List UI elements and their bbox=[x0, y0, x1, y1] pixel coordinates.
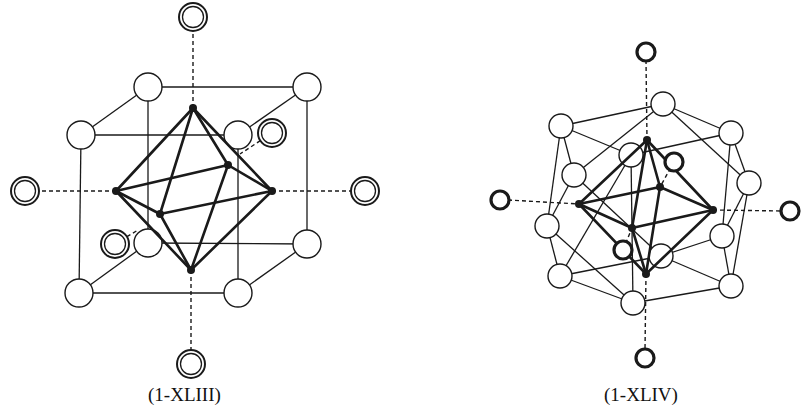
sphere-node bbox=[293, 230, 321, 258]
cage-edge bbox=[633, 286, 731, 303]
octahedron-edge bbox=[632, 210, 713, 228]
ring-ligand-icon bbox=[781, 202, 799, 220]
ring-ligand-icon bbox=[491, 191, 509, 209]
cuboctahedron-sphere-nodes bbox=[535, 92, 761, 315]
octahedron-edge bbox=[116, 191, 160, 214]
ring-ligand-icon bbox=[614, 241, 632, 259]
metal-atom bbox=[709, 206, 717, 214]
sphere-node bbox=[719, 121, 743, 145]
octahedron-edge bbox=[160, 191, 272, 214]
ring-ligand-icon bbox=[179, 3, 207, 31]
sphere-node bbox=[535, 214, 559, 238]
metal-atom bbox=[643, 136, 651, 144]
sphere-node bbox=[293, 73, 321, 101]
sphere-node bbox=[549, 114, 573, 138]
metal-atom bbox=[187, 266, 195, 274]
ring-ligand-icon bbox=[101, 230, 129, 258]
octahedron-edge bbox=[116, 165, 228, 191]
ring-ligand-icon bbox=[177, 350, 205, 378]
sphere-node bbox=[134, 73, 162, 101]
ring-ligand-icon bbox=[351, 177, 379, 205]
sphere-node bbox=[562, 163, 586, 187]
octahedron-edge bbox=[660, 187, 713, 210]
octahedron-edge bbox=[116, 108, 193, 191]
caption-1-xliii: (1-XLIII) bbox=[148, 384, 221, 406]
ring-ligand-icon bbox=[665, 153, 683, 171]
ring-ligand-icon bbox=[11, 177, 39, 205]
ring-ligand-icon bbox=[258, 119, 286, 147]
sphere-node bbox=[719, 274, 743, 298]
sphere-node bbox=[649, 244, 673, 268]
diagram-canvas bbox=[0, 0, 801, 415]
metal-atom bbox=[575, 200, 583, 208]
sphere-node bbox=[65, 279, 93, 307]
dashed-axis bbox=[646, 60, 647, 140]
octahedron-edge bbox=[193, 108, 272, 191]
octahedron-edge bbox=[579, 187, 660, 204]
metal-atom bbox=[268, 187, 276, 195]
metal-atom bbox=[656, 183, 664, 191]
cage-edge bbox=[561, 104, 663, 126]
sphere-node bbox=[548, 264, 572, 288]
figure-1-xliii bbox=[11, 3, 379, 378]
octahedron-edge bbox=[191, 165, 228, 270]
sphere-node bbox=[710, 224, 734, 248]
cage-edge bbox=[148, 243, 307, 244]
octahedron-edge bbox=[579, 204, 632, 228]
cage-edge bbox=[79, 135, 81, 293]
metal-atom bbox=[628, 224, 636, 232]
sphere-node bbox=[67, 121, 95, 149]
metal-atom bbox=[156, 210, 164, 218]
metal-atom bbox=[189, 104, 197, 112]
octahedron-edges bbox=[579, 140, 713, 274]
dashed-axis bbox=[645, 274, 646, 350]
sphere-node bbox=[651, 92, 675, 116]
metal-atom bbox=[642, 270, 650, 278]
metal-atom bbox=[224, 161, 232, 169]
caption-1-xliv: (1-XLIV) bbox=[604, 384, 678, 406]
octahedron-edge bbox=[191, 191, 272, 270]
dashed-axis bbox=[508, 200, 579, 204]
sphere-node bbox=[737, 171, 761, 195]
sphere-node bbox=[621, 291, 645, 315]
sphere-node bbox=[224, 279, 252, 307]
ring-ligand-icon bbox=[636, 349, 654, 367]
ring-ligand-icon bbox=[637, 43, 655, 61]
metal-atom bbox=[112, 187, 120, 195]
octahedron-edge bbox=[193, 108, 228, 165]
figure-1-xliv bbox=[491, 43, 799, 367]
dashed-axis bbox=[713, 210, 782, 211]
cage-edge bbox=[547, 126, 561, 226]
